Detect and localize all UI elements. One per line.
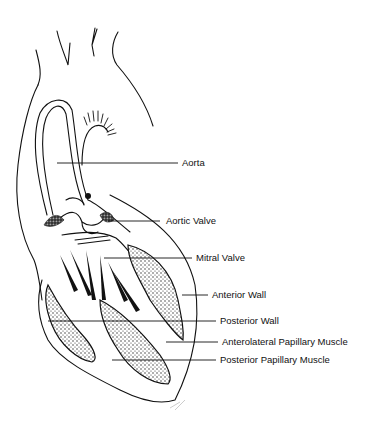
vessel-line <box>36 50 40 85</box>
label-posterior-wall: Posterior Wall <box>220 316 279 326</box>
label-aorta: Aorta <box>182 158 205 168</box>
label-anterior-wall: Anterior Wall <box>212 290 266 300</box>
aortic-arch-outer <box>35 100 130 232</box>
label-posterior-papillary-muscle: Posterior Papillary Muscle <box>220 355 330 365</box>
label-anterolateral-papillary-muscle: Anterolateral Papillary Muscle <box>222 337 348 347</box>
label-aortic-valve: Aortic Valve <box>166 216 216 226</box>
anterior-wall-muscle <box>128 245 183 340</box>
label-mitral-valve: Mitral Valve <box>196 253 245 263</box>
posterior-wall-muscle <box>46 285 95 362</box>
